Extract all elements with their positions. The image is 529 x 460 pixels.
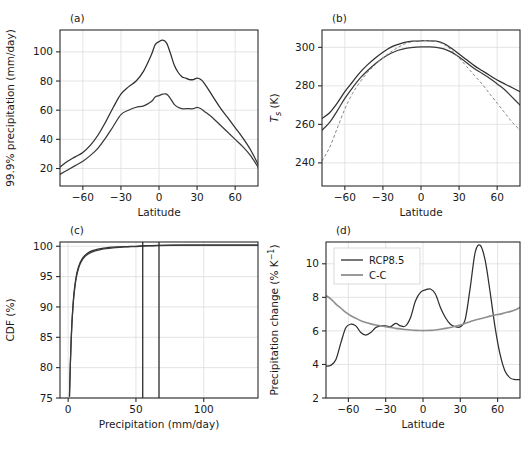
figure-root: −60−300306020406080100Latitude99.9% prec… <box>0 0 529 460</box>
panel-c-svg: 0501007580859095100Precipitation (mm/day… <box>0 222 265 460</box>
panel-a-svg: −60−300306020406080100Latitude99.9% prec… <box>0 0 265 228</box>
panel-c-xlabel: Precipitation (mm/day) <box>99 418 219 430</box>
panel-c-xtick-label: 0 <box>65 403 72 415</box>
panel-c-ytick-label: 90 <box>40 301 53 313</box>
panel-c-ytick-label: 85 <box>40 331 53 343</box>
panel-b-ylabel: Ts (K) <box>268 93 283 122</box>
panel-a-xtick-label: 30 <box>190 191 203 203</box>
panel-b-ytick-label: 260 <box>295 118 315 130</box>
panel-a-ytick-label: 20 <box>40 162 53 174</box>
panel-d-legend[interactable]: RCP8.5C-C <box>334 248 420 284</box>
panel-d-xtick-label: −60 <box>337 403 359 415</box>
panel-a-xlabel: Latitude <box>137 206 180 218</box>
panel-a-ticks: −60−300306020406080100 <box>33 45 242 203</box>
panel-d-svg: −60−3003060246810LatitudePrecipitation c… <box>264 222 529 460</box>
panel-c-container: 0501007580859095100Precipitation (mm/day… <box>0 222 265 460</box>
panel-b-gridlines <box>322 30 520 186</box>
panel-c-xtick-label: 100 <box>194 403 214 415</box>
panel-c-label: (c) <box>70 224 84 236</box>
panel-b-container: −60−3003060240260280300LatitudeTs (K)(b) <box>264 0 529 228</box>
panel-c-xtick-label: 50 <box>129 403 142 415</box>
panel-b-ticks: −60−3003060240260280300 <box>295 41 504 203</box>
panel-c-ytick-label: 100 <box>33 240 53 252</box>
panel-a-ylabel: 99.9% precipitation (mm/day) <box>4 29 16 187</box>
panel-a-label: (a) <box>70 12 85 24</box>
panel-a-xtick-label: 0 <box>156 191 163 203</box>
panel-d-container: −60−3003060246810LatitudePrecipitation c… <box>264 222 529 460</box>
panel-b-xlabel: Latitude <box>399 206 442 218</box>
panel-c-ytick-label: 80 <box>40 361 53 373</box>
panel-a-xtick-label: 60 <box>228 191 241 203</box>
panel-d-ytick-label: 4 <box>312 358 319 370</box>
panel-a-container: −60−300306020406080100Latitude99.9% prec… <box>0 0 265 228</box>
panel-c-ytick-label: 95 <box>40 270 53 282</box>
panel-b-xtick-label: 0 <box>418 191 425 203</box>
panel-b-ytick-label: 240 <box>295 156 315 168</box>
panel-d-xtick-label: 30 <box>454 403 467 415</box>
panel-d-xtick-label: 0 <box>420 403 427 415</box>
panel-d-ytick-label: 6 <box>312 325 319 337</box>
panel-a-ytick-label: 100 <box>33 45 53 57</box>
panel-d-xtick-label: 60 <box>491 403 504 415</box>
panel-c-series-cdf-2 <box>69 245 258 396</box>
panel-b-xtick-label: 60 <box>490 191 503 203</box>
panel-c-ytick-label: 75 <box>40 392 53 404</box>
panel-a-ytick-label: 40 <box>40 133 53 145</box>
panel-b-ytick-label: 300 <box>295 41 315 53</box>
panel-b-xtick-label: −30 <box>372 191 394 203</box>
panel-c-ylabel: CDF (%) <box>4 299 16 342</box>
panel-d-ytick-label: 10 <box>306 257 319 269</box>
panel-a-xtick-label: −30 <box>110 191 132 203</box>
panel-d-ytick-label: 8 <box>312 291 319 303</box>
panel-a-ytick-label: 80 <box>40 75 53 87</box>
panel-d-legend-label: RCP8.5 <box>369 255 404 266</box>
panel-d-legend-label: C-C <box>369 270 387 281</box>
panel-d-label: (d) <box>336 224 351 236</box>
panel-d-ylabel: Precipitation change (% K−1) <box>267 244 280 395</box>
panel-a-gridlines <box>60 30 258 186</box>
panel-a-ytick-label: 60 <box>40 104 53 116</box>
panel-d-ytick-label: 2 <box>312 392 319 404</box>
panel-d-xlabel: Latitude <box>401 418 444 430</box>
panel-c-series-group <box>69 242 258 398</box>
panel-c-series-cdf-1 <box>69 245 258 396</box>
panel-a-xtick-label: −60 <box>72 191 94 203</box>
panel-b-xtick-label: −60 <box>334 191 356 203</box>
panel-b-ytick-label: 280 <box>295 79 315 91</box>
panel-d-xtick-label: −30 <box>375 403 397 415</box>
panel-b-xtick-label: 30 <box>452 191 465 203</box>
panel-b-label: (b) <box>332 12 347 24</box>
panel-b-svg: −60−3003060240260280300LatitudeTs (K)(b) <box>264 0 529 228</box>
